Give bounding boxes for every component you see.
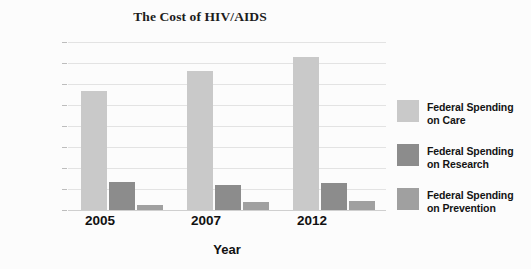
x-axis-tick-label: 2012 bbox=[280, 213, 386, 228]
y-tick-mark bbox=[62, 63, 67, 64]
bar[interactable] bbox=[109, 182, 135, 210]
bar-group-2012 bbox=[280, 42, 386, 210]
chart-title: The Cost of HIV/AIDS bbox=[0, 9, 400, 25]
bar[interactable] bbox=[215, 185, 241, 210]
bar[interactable] bbox=[321, 183, 347, 210]
bar[interactable] bbox=[137, 205, 163, 210]
x-axis-tick-labels: 200520072012 bbox=[68, 213, 386, 228]
y-tick-mark bbox=[62, 189, 67, 190]
legend-item[interactable]: Federal Spendingon Prevention bbox=[397, 188, 531, 214]
bar[interactable] bbox=[187, 71, 213, 210]
x-axis-tick-label: 2005 bbox=[68, 213, 174, 228]
bar-chart: The Cost of HIV/AIDS Billions of Dollars… bbox=[0, 0, 531, 269]
y-tick-mark bbox=[62, 147, 67, 148]
gridline bbox=[68, 210, 386, 211]
legend-label: Federal Spendingon Prevention bbox=[427, 188, 514, 214]
x-axis-tick-label: 2007 bbox=[174, 213, 280, 228]
legend-label: Federal Spendingon Care bbox=[427, 100, 514, 126]
legend: Federal Spendingon CareFederal Spendingo… bbox=[397, 100, 531, 232]
x-axis-title: Year bbox=[68, 242, 386, 257]
y-tick-mark bbox=[62, 210, 67, 211]
bar[interactable] bbox=[243, 202, 269, 210]
bar[interactable] bbox=[81, 91, 107, 210]
legend-item[interactable]: Federal Spendingon Care bbox=[397, 100, 531, 126]
bar[interactable] bbox=[293, 57, 319, 210]
legend-swatch-icon bbox=[397, 188, 419, 210]
legend-swatch-icon bbox=[397, 144, 419, 166]
bar-group-2007 bbox=[174, 42, 280, 210]
legend-item[interactable]: Federal Spendingon Research bbox=[397, 144, 531, 170]
y-tick-mark bbox=[62, 84, 67, 85]
bar[interactable] bbox=[349, 201, 375, 210]
legend-swatch-icon bbox=[397, 100, 419, 122]
bar-groups bbox=[68, 42, 386, 210]
legend-label: Federal Spendingon Research bbox=[427, 144, 514, 170]
bar-group-2005 bbox=[68, 42, 174, 210]
y-tick-mark bbox=[62, 126, 67, 127]
plot-area: 0246810121416 bbox=[68, 42, 386, 210]
y-tick-mark bbox=[62, 42, 67, 43]
y-tick-mark bbox=[62, 168, 67, 169]
y-tick-mark bbox=[62, 105, 67, 106]
